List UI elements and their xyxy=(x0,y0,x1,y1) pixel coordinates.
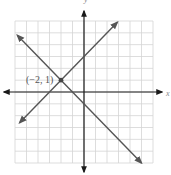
coordinate-plane xyxy=(0,0,171,175)
line-series xyxy=(20,22,118,123)
point-marker xyxy=(59,78,64,83)
y-axis-label: y xyxy=(84,0,88,4)
intersection-label: (−2, 1) xyxy=(26,74,53,85)
line-series xyxy=(17,35,141,163)
x-axis-label: x xyxy=(166,89,170,98)
intersection-point xyxy=(59,78,64,83)
axes xyxy=(4,11,162,172)
